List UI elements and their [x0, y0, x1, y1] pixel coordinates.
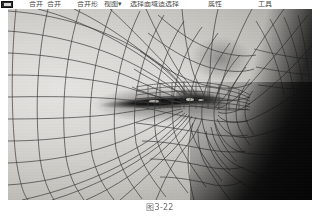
toolbar-item-4[interactable]: 视图▾	[104, 1, 122, 7]
toolbar-item-7[interactable]: 工具	[258, 1, 272, 7]
render-background-shadow-corner	[190, 82, 312, 200]
toolbar-item-3[interactable]: 合并形	[77, 1, 98, 7]
figure-caption: 图3-22	[0, 203, 320, 213]
toolbar-item-5[interactable]: 选择面域适选择	[130, 1, 179, 7]
toolbar-item-2[interactable]: 合并	[47, 1, 61, 7]
toolbar-item-6[interactable]: 属性	[208, 1, 222, 7]
app-icon[interactable]	[1, 1, 13, 8]
toolbar-item-1[interactable]: 合并	[29, 1, 43, 7]
wireframe-face-mesh-render	[8, 9, 312, 200]
toolbar-strip: 合并 合并 合并形 视图▾ 选择面域适选择 属性 工具	[0, 0, 320, 8]
